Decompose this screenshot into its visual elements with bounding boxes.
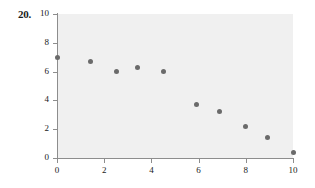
data-point: [161, 69, 166, 74]
y-tick-label: 4: [29, 94, 49, 104]
data-point: [135, 65, 140, 70]
x-tick-mark: [199, 159, 200, 163]
x-tick-label: 6: [189, 165, 209, 175]
x-tick-mark: [57, 159, 58, 163]
y-tick-mark: [53, 100, 57, 101]
x-tick-label: 0: [47, 165, 67, 175]
x-axis-line: [56, 158, 294, 159]
y-tick-label: 8: [29, 37, 49, 47]
y-tick-label: 6: [29, 66, 49, 76]
x-tick-mark: [246, 159, 247, 163]
data-point: [291, 150, 296, 155]
x-tick-mark: [151, 159, 152, 163]
y-tick-mark: [53, 129, 57, 130]
y-tick-mark: [53, 14, 57, 15]
y-tick-mark: [53, 72, 57, 73]
data-point: [88, 59, 93, 64]
x-tick-mark: [293, 159, 294, 163]
x-tick-mark: [104, 159, 105, 163]
data-point: [55, 55, 60, 60]
x-tick-label: 10: [283, 165, 303, 175]
x-tick-label: 2: [94, 165, 114, 175]
data-point: [114, 69, 119, 74]
data-point: [265, 135, 270, 140]
scatter-plot-figure: 20. 0246810 0246810: [0, 0, 315, 188]
plot-panel-background: [57, 14, 293, 158]
y-axis-line: [57, 13, 58, 159]
y-tick-label: 2: [29, 123, 49, 133]
y-tick-label: 0: [29, 152, 49, 162]
data-point: [194, 102, 199, 107]
y-tick-mark: [53, 43, 57, 44]
x-tick-label: 4: [141, 165, 161, 175]
x-tick-label: 8: [236, 165, 256, 175]
y-tick-label: 10: [29, 8, 49, 18]
